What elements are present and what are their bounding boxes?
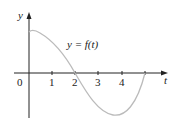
curve-annotation: y = f(t): [66, 38, 99, 51]
y-axis-label: y: [17, 9, 23, 21]
x-axis-label: t: [164, 74, 168, 86]
x-tick-label-4: 4: [119, 76, 125, 88]
y-axis-arrow-icon: [27, 12, 32, 19]
origin-label: 0: [17, 76, 23, 88]
x-tick-label-1: 1: [49, 76, 55, 88]
x-tick-label-3: 3: [95, 76, 101, 88]
chart: y t 0 1 2 3 4 y = f(t): [0, 0, 178, 124]
x-tick-label-2: 2: [72, 76, 78, 88]
